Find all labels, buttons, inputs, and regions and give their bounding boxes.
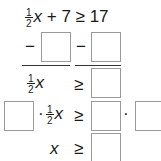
multiply-dot-left: · xyxy=(38,104,44,124)
original-inequality: 1 2 x + 7 ≥ 17 xyxy=(25,7,109,28)
answer-box-step2[interactable] xyxy=(91,68,121,98)
solution-variable: x xyxy=(50,139,59,159)
answer-box-subtract-right[interactable] xyxy=(91,32,121,62)
relation-symbol: ≥ xyxy=(74,106,83,126)
relation-symbol: ≥ xyxy=(74,75,83,95)
relation-symbol: ≥ xyxy=(74,139,83,159)
fraction-one-half: 1 2 xyxy=(27,74,35,94)
answer-box-multiplier-right[interactable] xyxy=(135,101,161,131)
answer-box-solution[interactable] xyxy=(91,133,121,161)
answer-box-multiplier-left[interactable] xyxy=(4,101,34,131)
multiply-dot-right: · xyxy=(123,104,129,124)
divider-line-right xyxy=(75,65,121,66)
step2-left-expression: 1 2 x xyxy=(27,73,44,94)
minus-sign-right: − xyxy=(76,37,86,57)
answer-box-subtract-left[interactable] xyxy=(41,32,71,62)
answer-box-step3-value[interactable] xyxy=(91,101,121,131)
divider-line-left xyxy=(22,65,70,66)
fraction-one-half: 1 2 xyxy=(46,105,54,125)
fraction-one-half: 1 2 xyxy=(25,8,33,28)
step3-left-expression: 1 2 x xyxy=(46,104,63,125)
minus-sign-left: − xyxy=(25,37,35,57)
